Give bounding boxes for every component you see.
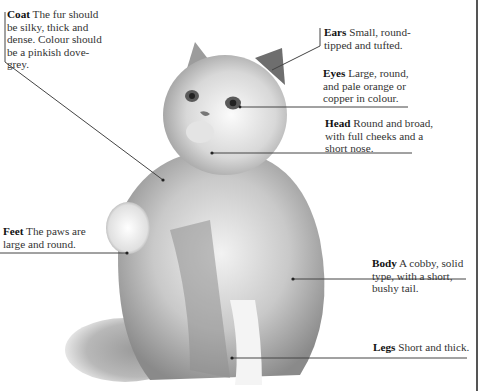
legs-pointer-dot	[230, 356, 233, 359]
ears-label: Ears Small, round-tipped and tufted.	[324, 26, 424, 51]
coat-term: Coat	[7, 8, 30, 20]
coat-pointer-dot	[161, 178, 164, 181]
body-term: Body	[372, 257, 397, 269]
body-label: Body A cobby, solid type, with a short, …	[372, 257, 472, 295]
legs-term: Legs	[373, 341, 395, 353]
head-label: Head Round and broad, with full cheeks a…	[325, 117, 435, 155]
head-pointer-dot	[210, 151, 213, 154]
ears-leader-line	[272, 28, 320, 70]
legs-description: Short and thick.	[395, 341, 469, 353]
eyes-pointer-dot	[239, 106, 242, 109]
ears-term: Ears	[324, 26, 346, 38]
coat-label: Coat The fur should be silky, thick and …	[7, 8, 107, 71]
feet-label: Feet The paws are large and round.	[3, 225, 103, 250]
eyes-label: Eyes Large, round, and pale orange or co…	[323, 67, 421, 105]
eyes-term: Eyes	[323, 67, 345, 79]
feet-term: Feet	[3, 225, 24, 237]
feet-pointer-dot	[125, 251, 128, 254]
head-term: Head	[325, 117, 350, 129]
body-pointer-dot	[291, 277, 294, 280]
legs-label: Legs Short and thick.	[373, 341, 480, 354]
